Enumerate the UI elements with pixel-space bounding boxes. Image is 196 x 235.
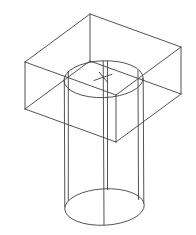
cylinder-line bbox=[64, 80, 65, 207]
cylinder-wireframe bbox=[63, 59, 145, 227]
cylinder-line bbox=[138, 71, 139, 200]
box-edge bbox=[25, 109, 116, 142]
box-edge bbox=[25, 61, 90, 109]
box-edge bbox=[90, 14, 181, 47]
box-edge bbox=[116, 47, 181, 95]
base-ellipse bbox=[64, 187, 145, 228]
box-edge bbox=[25, 14, 90, 62]
drawing-canvas bbox=[0, 0, 196, 235]
isometric-wireframe-drawing bbox=[0, 0, 196, 235]
box-edge bbox=[116, 94, 181, 142]
cylinder-line bbox=[143, 78, 144, 203]
cylinder-line bbox=[103, 61, 104, 225]
